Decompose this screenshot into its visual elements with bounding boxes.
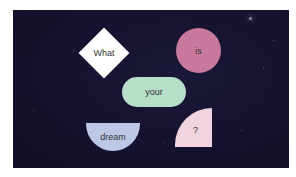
quarter-circle-label: ?: [193, 125, 198, 135]
half-circle-label: dream: [100, 132, 126, 142]
star-icon: [263, 68, 264, 69]
circle-shape: is: [176, 28, 221, 73]
quarter-circle-shape: ?: [175, 108, 212, 147]
diamond-label: What: [79, 28, 129, 78]
star-icon: [273, 40, 274, 41]
starry-background-panel: What is your dream ?: [13, 10, 289, 168]
star-icon: [73, 50, 74, 51]
circle-label: is: [195, 46, 202, 56]
star-icon: [33, 110, 34, 111]
half-circle-shape: dream: [86, 123, 140, 151]
star-icon: [241, 130, 242, 131]
star-icon: [249, 17, 252, 20]
star-icon: [163, 142, 164, 143]
diamond-shape: What: [79, 28, 129, 78]
pill-shape: your: [122, 77, 186, 107]
pill-label: your: [145, 87, 163, 97]
